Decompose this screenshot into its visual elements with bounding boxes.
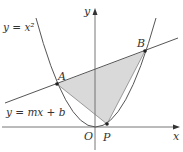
line-label: y = mx + b	[5, 106, 66, 118]
point-p	[105, 122, 109, 126]
origin-label: O	[84, 130, 93, 143]
y-axis-label: y	[83, 5, 91, 18]
y-axis-arrow-icon	[93, 8, 98, 15]
point-b-label: B	[136, 37, 145, 50]
point-p-label: P	[102, 131, 111, 144]
parabola-diagram: y = x² y = mx + b A B P O x y	[0, 0, 183, 152]
x-axis-label: x	[173, 130, 180, 143]
point-a-label: A	[57, 70, 66, 83]
parabola-label: y = x²	[2, 21, 35, 33]
x-axis-arrow-icon	[173, 125, 180, 130]
